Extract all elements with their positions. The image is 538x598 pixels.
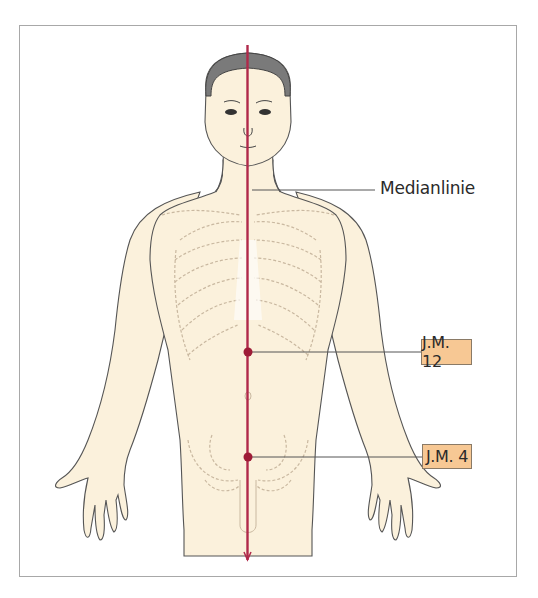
point-jm12[interactable] [244, 348, 253, 357]
point-jm4[interactable] [244, 453, 253, 462]
point-label-jm4-text: J.M. 4 [426, 447, 468, 466]
point-label-jm12-text: J.M. 12 [422, 333, 471, 371]
anatomy-figure [0, 0, 538, 598]
point-label-jm4: J.M. 4 [422, 444, 472, 469]
median-line-label: Medianlinie [380, 178, 475, 198]
point-label-jm12: J.M. 12 [421, 339, 472, 365]
